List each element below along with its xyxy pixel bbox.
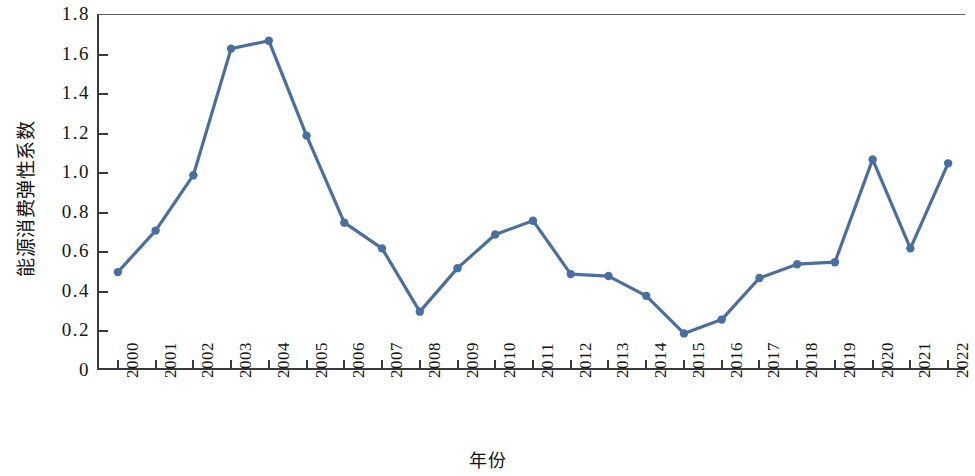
x-axis-tick-labels: 2000200120022003200420052006200720082009…: [97, 0, 965, 476]
x-axis-tick-label: 2018: [802, 342, 822, 378]
x-axis-tick-label: 2011: [538, 343, 558, 378]
x-axis-tick-label: 2008: [425, 342, 445, 378]
x-axis-tick-label: 2021: [915, 342, 935, 378]
x-axis-tick-label: 2001: [161, 342, 181, 378]
x-axis-tick-label: 2009: [463, 342, 483, 378]
x-axis-tick-label: 2007: [387, 342, 407, 378]
y-axis-tick-label: 1.6: [30, 43, 90, 65]
x-axis-tick-label: 2014: [651, 342, 671, 378]
y-axis-tick-label: 1.0: [30, 161, 90, 183]
x-axis-tick-label: 2017: [764, 342, 784, 378]
x-axis-tick-label: 2012: [576, 342, 596, 378]
y-axis-tick-label: 1.8: [30, 3, 90, 25]
x-axis-tick-label: 2022: [953, 342, 973, 378]
x-axis-tick-label: 2006: [349, 342, 369, 378]
x-axis-tick-label: 2005: [312, 342, 332, 378]
x-axis-tick-label: 2002: [198, 342, 218, 378]
y-axis-tick-label: 1.2: [30, 122, 90, 144]
x-axis-tick-label: 2003: [236, 342, 256, 378]
x-axis-tick-label: 2020: [878, 342, 898, 378]
x-axis-tick-label: 2004: [274, 342, 294, 378]
x-axis-tick-label: 2013: [613, 342, 633, 378]
x-axis-tick-label: 2016: [727, 342, 747, 378]
x-axis-tick-label: 2015: [689, 342, 709, 378]
y-axis-tick-label: 1.4: [30, 82, 90, 104]
x-axis-tick-label: 2010: [500, 342, 520, 378]
y-axis-tick-labels: 00.20.40.60.81.01.21.41.61.8: [20, 0, 90, 476]
x-axis-tick-label: 2000: [123, 342, 143, 378]
y-axis-tick-label: 0.6: [30, 240, 90, 262]
y-axis-tick-label: 0: [30, 359, 90, 381]
y-axis-tick-label: 0.8: [30, 201, 90, 223]
chart-figure: 能源消费弹性系数 00.20.40.60.81.01.21.41.61.8 20…: [0, 0, 975, 476]
x-axis-tick-label: 2019: [840, 342, 860, 378]
y-axis-tick-label: 0.2: [30, 319, 90, 341]
y-axis-tick-label: 0.4: [30, 280, 90, 302]
x-axis-title: 年份: [0, 446, 975, 472]
